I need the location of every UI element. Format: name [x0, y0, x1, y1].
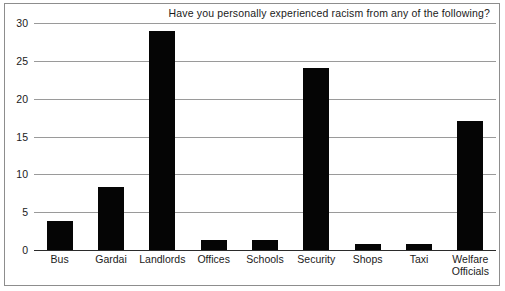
bar [98, 187, 124, 250]
y-axis-tick-label: 30 [16, 17, 28, 29]
bar [149, 31, 175, 250]
x-axis-category-label: Landlords [139, 253, 185, 265]
chart-title: Have you personally experienced racism f… [169, 7, 490, 19]
x-axis-labels: BusGardaiLandlordsOfficesSchoolsSecurity… [34, 253, 496, 287]
y-axis-tick-label: 25 [16, 55, 28, 67]
bar-series [34, 23, 496, 250]
bar [201, 240, 227, 250]
y-axis-tick-label: 20 [16, 93, 28, 105]
x-axis-category-label: Schools [246, 253, 283, 265]
x-axis-category-label: Taxi [410, 253, 429, 265]
chart-frame: Have you personally experienced racism f… [4, 3, 500, 286]
x-axis-category-label: Bus [51, 253, 69, 265]
x-axis-category-label: Offices [197, 253, 229, 265]
plot-area: 051015202530 [34, 23, 496, 250]
bar [457, 121, 483, 250]
bar [303, 68, 329, 250]
x-axis-category-label: Shops [353, 253, 383, 265]
x-axis-line [34, 250, 496, 251]
bar [406, 244, 432, 250]
y-axis-tick-label: 10 [16, 168, 28, 180]
x-axis-category-label: Welfare Officials [452, 253, 489, 277]
bar [47, 221, 73, 250]
y-axis-tick-label: 15 [16, 131, 28, 143]
bar [355, 244, 381, 250]
y-axis-tick-label: 5 [22, 206, 28, 218]
x-axis-category-label: Gardai [95, 253, 127, 265]
bar [252, 240, 278, 250]
x-axis-category-label: Security [297, 253, 335, 265]
y-axis-tick-label: 0 [22, 244, 28, 256]
